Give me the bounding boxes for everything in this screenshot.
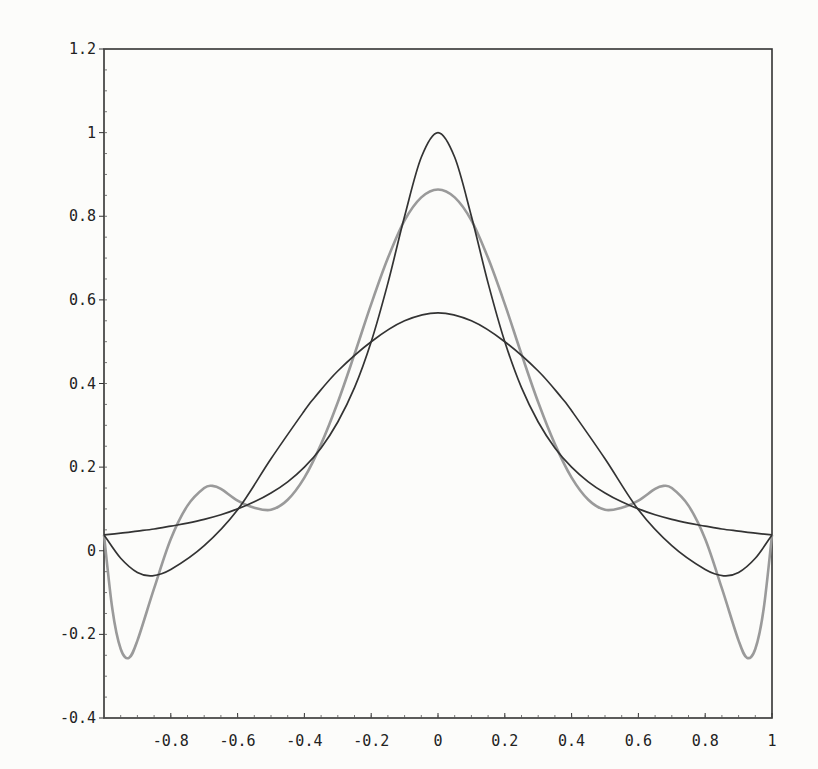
x-tick-label: 0.2 [491, 732, 518, 750]
y-tick-label: 0.6 [69, 291, 96, 309]
y-tick-label: 0.2 [69, 458, 96, 476]
series-high-degree-interpolant [104, 190, 772, 659]
x-tick-label: 0 [433, 732, 442, 750]
minor-ticks [104, 49, 772, 718]
series-runge-function [104, 133, 772, 535]
y-tick-label: 0.8 [69, 207, 96, 225]
x-tick-label: -0.8 [153, 732, 189, 750]
y-tick-label: 1 [87, 124, 96, 142]
y-tick-label: 1.2 [69, 40, 96, 58]
x-tick-label: 0.8 [692, 732, 719, 750]
y-tick-label: -0.4 [60, 709, 96, 727]
series-group [104, 133, 772, 659]
y-tick-label: 0 [87, 542, 96, 560]
plot-frame [104, 49, 772, 718]
x-tick-label: -0.2 [353, 732, 389, 750]
y-tick-label: -0.2 [60, 625, 96, 643]
series-low-degree-approximant [104, 313, 772, 576]
y-tick-label: 0.4 [69, 375, 96, 393]
x-tick-label: -0.4 [286, 732, 322, 750]
x-tick-label: 1 [767, 732, 776, 750]
y-axis-ticks: 1.210.80.60.40.20-0.2-0.4 [60, 40, 104, 727]
x-tick-label: 0.6 [625, 732, 652, 750]
x-tick-label: 0.4 [558, 732, 585, 750]
x-tick-label: -0.6 [220, 732, 256, 750]
chart: 1.210.80.60.40.20-0.2-0.4 -0.8-0.6-0.4-0… [0, 0, 818, 769]
